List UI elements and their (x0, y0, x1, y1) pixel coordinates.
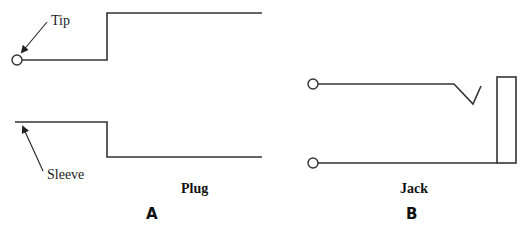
sleeve-label: Sleeve (47, 167, 84, 182)
jack-tip-terminal (308, 79, 318, 89)
jack-sleeve-body (497, 77, 516, 163)
jack-sleeve-terminal (308, 158, 318, 168)
sleeve-conductor (15, 122, 262, 157)
plug-schematic: Tip Sleeve Plug A (12, 13, 262, 223)
jack-schematic: Jack B (308, 77, 516, 223)
plug-jack-diagram: Tip Sleeve Plug A Jack B (0, 0, 529, 230)
plug-caption: Plug (181, 181, 208, 196)
panel-letter-b: B (406, 205, 417, 223)
sleeve-arrow-icon (23, 127, 43, 171)
tip-label: Tip (51, 13, 70, 28)
tip-terminal (12, 55, 22, 65)
jack-tip-spring-contact (318, 84, 481, 104)
tip-arrow-icon (22, 22, 47, 52)
jack-caption: Jack (400, 181, 428, 196)
panel-letter-a: A (146, 205, 158, 223)
